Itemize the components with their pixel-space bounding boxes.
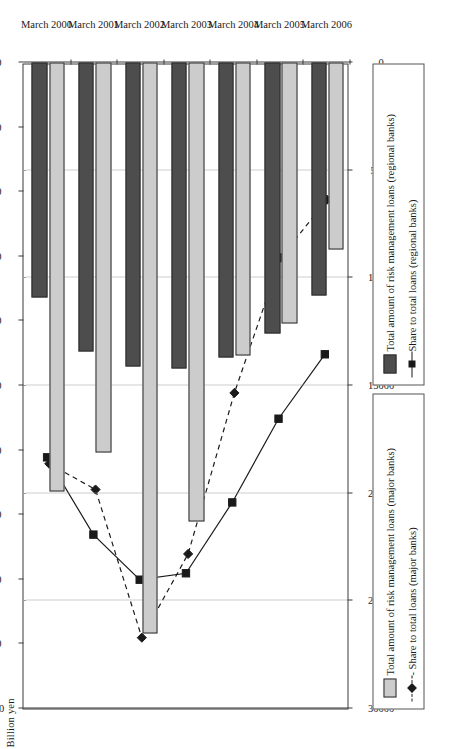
category-tick: [209, 59, 210, 64]
category-label: March 2000: [21, 19, 72, 30]
bar-major-banks: [281, 62, 296, 323]
axis-tick-yen: [347, 599, 352, 600]
axis-tick-pct: [18, 449, 23, 450]
axis-tick-yen: [347, 707, 352, 708]
category-label: March 2002: [114, 19, 165, 30]
bar-regional-banks: [78, 62, 93, 351]
axis-tick-label-pct: 1.0: [0, 121, 1, 132]
legend-item-major-bar: Total amount of risk management loans (m…: [378, 401, 400, 701]
gridline-yen: [23, 384, 347, 385]
legend-label-regional-line: Share to total loans (regional banks): [406, 199, 417, 351]
axis-tick-pct: [18, 513, 23, 514]
axis-tick-label-pct: 10.0: [0, 703, 4, 714]
legend-item-regional-bar: Total amount of risk management loans (r…: [378, 71, 400, 377]
legend-item-major-line: - Share to total loans (major banks): [400, 401, 422, 701]
line-share-regional-banks: [47, 354, 325, 579]
legend-regional-banks: Total amount of risk management loans (r…: [372, 63, 424, 385]
data-point-marker-square: [274, 415, 281, 422]
legend-swatch-regional-bar: [383, 351, 396, 377]
legend-swatch-major-bar: [383, 675, 396, 701]
axis-tick-label-pct: 6.0: [0, 444, 1, 455]
bar-regional-banks: [171, 62, 186, 368]
bar-regional-banks: [218, 62, 233, 357]
axis-tick-pct: [18, 255, 23, 256]
gridline-yen: [23, 599, 347, 600]
axis-tick-yen: [347, 492, 352, 493]
chart-stage: Billion yen 3000025000200001500010000500…: [0, 0, 453, 749]
bar-major-banks: [49, 62, 64, 491]
legend-major-banks: Total amount of risk management loans (m…: [372, 393, 424, 709]
bar-regional-banks: [31, 62, 46, 297]
category-label: March 2004: [207, 19, 258, 30]
legend-marker-diamond-icon: [406, 675, 417, 701]
data-point-marker-diamond: [183, 549, 192, 558]
bar-major-banks: [142, 62, 157, 633]
axis-tick-label-pct: 8.0: [0, 573, 1, 584]
category-label: March 2001: [67, 19, 118, 30]
data-point-marker-diamond: [229, 388, 238, 397]
bar-major-banks: [95, 62, 110, 452]
gridline-yen: [23, 492, 347, 493]
axis-tick-pct: [18, 642, 23, 643]
data-point-marker-square: [89, 530, 96, 537]
data-point-marker-square: [182, 569, 189, 576]
legend-marker-square-icon: [406, 351, 417, 377]
bar-regional-banks: [311, 62, 326, 295]
plot-area: 30000250002000015000100005000010.09.08.0…: [22, 63, 348, 709]
axis-tick-yen: [347, 169, 352, 170]
axis-tick-pct: [18, 319, 23, 320]
gridline-yen: [23, 707, 347, 708]
legend-item-regional-line: Share to total loans (regional banks): [400, 71, 422, 377]
axis-tick-pct: [18, 61, 23, 62]
category-tick: [302, 59, 303, 64]
axis-tick-pct: [18, 384, 23, 385]
axis-tick-label-pct: 5.0: [0, 380, 1, 391]
bar-major-banks: [328, 62, 343, 249]
category-tick: [349, 59, 350, 64]
category-tick: [163, 59, 164, 64]
axis-tick-label-pct: 3.0: [0, 250, 1, 261]
category-tick: [70, 59, 71, 64]
bar-major-banks: [235, 62, 250, 355]
bar-regional-banks: [264, 62, 279, 333]
value-axis-title: Billion yen: [4, 698, 15, 747]
axis-tick-label-pct: 0.0: [0, 57, 1, 68]
data-point-marker-square: [228, 498, 235, 505]
axis-tick-pct: [18, 126, 23, 127]
category-label: March 2006: [300, 19, 351, 30]
category-label: March 2005: [254, 19, 305, 30]
axis-tick-yen: [347, 276, 352, 277]
axis-tick-label-pct: 7.0: [0, 509, 1, 520]
category-label: March 2003: [160, 19, 211, 30]
category-tick: [256, 59, 257, 64]
axis-tick-pct: [18, 578, 23, 579]
axis-tick-label-pct: 2.0: [0, 186, 1, 197]
axis-tick-label-pct: 9.0: [0, 638, 1, 649]
legend-label-major-bar: Total amount of risk management loans (m…: [384, 447, 395, 675]
bar-major-banks: [188, 62, 203, 521]
axis-tick-yen: [347, 384, 352, 385]
data-point-marker-diamond: [137, 633, 146, 642]
bar-regional-banks: [125, 62, 140, 366]
axis-tick-pct: [18, 190, 23, 191]
axis-tick-label-pct: 4.0: [0, 315, 1, 326]
legend-label-regional-bar: Total amount of risk management loans (r…: [384, 114, 395, 352]
legend-label-major-line: - Share to total loans (major banks): [406, 527, 417, 675]
axis-tick-pct: [18, 707, 23, 708]
category-tick: [116, 59, 117, 64]
data-point-marker-square: [321, 350, 328, 357]
